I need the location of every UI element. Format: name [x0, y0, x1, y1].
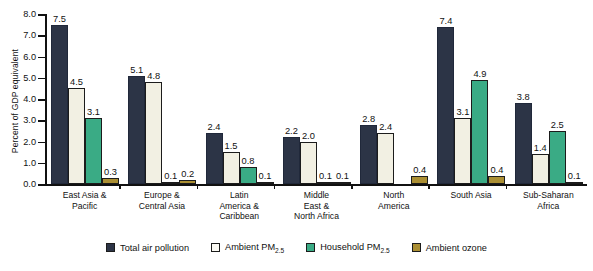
bar-value-label: 0.1 — [164, 171, 177, 181]
bar-group: 3.81.42.50.1 — [515, 14, 583, 184]
bar[interactable] — [223, 152, 240, 184]
bar-slot[interactable]: 0.1 — [317, 14, 334, 184]
bar-slot[interactable]: 3.1 — [454, 14, 471, 184]
bar[interactable] — [549, 131, 566, 184]
bar-group-bars: 2.41.50.80.1 — [206, 14, 274, 184]
bar[interactable] — [257, 182, 274, 185]
bar[interactable] — [68, 88, 85, 184]
bar[interactable] — [471, 80, 488, 184]
bar-slot[interactable]: 1.4 — [532, 14, 549, 184]
bar-slot[interactable] — [394, 14, 411, 184]
bar-slot[interactable]: 0.4 — [488, 14, 505, 184]
bar[interactable] — [515, 103, 532, 184]
x-axis-separator — [351, 184, 353, 189]
bar-slot[interactable]: 4.5 — [68, 14, 85, 184]
bar-value-label: 0.1 — [568, 171, 581, 181]
y-axis-tick-label: 4.0 — [8, 94, 36, 104]
bar[interactable] — [206, 133, 223, 184]
bar-slot[interactable]: 7.4 — [437, 14, 454, 184]
bar[interactable] — [240, 167, 257, 184]
x-axis-separator — [428, 184, 430, 189]
legend-swatch-icon — [306, 243, 315, 252]
category-label-line: Caribbean — [201, 211, 278, 222]
bar[interactable] — [566, 182, 583, 185]
bar-slot[interactable]: 0.4 — [411, 14, 428, 184]
bar-slot[interactable]: 0.1 — [257, 14, 274, 184]
bar-slot[interactable]: 5.1 — [128, 14, 145, 184]
bar-slot[interactable]: 0.1 — [334, 14, 351, 184]
legend-item[interactable]: Total air pollution — [106, 243, 189, 253]
bar-value-label: 2.0 — [302, 131, 315, 141]
bar[interactable] — [51, 25, 68, 184]
bar[interactable] — [437, 27, 454, 184]
bar[interactable] — [532, 154, 549, 184]
bar-value-label: 5.1 — [130, 65, 143, 75]
y-axis-tick — [38, 14, 45, 16]
bar-slot[interactable]: 0.2 — [179, 14, 196, 184]
category-label-line: Pacific — [46, 201, 123, 212]
bar-slot[interactable]: 1.5 — [223, 14, 240, 184]
bar-slot[interactable]: 3.1 — [85, 14, 102, 184]
bar-value-label: 2.8 — [362, 114, 375, 124]
category-label-line: Latin — [201, 190, 278, 201]
bar-group-bars: 7.43.14.90.4 — [437, 14, 505, 184]
bar[interactable] — [377, 133, 394, 184]
bar[interactable] — [488, 176, 505, 185]
bar[interactable] — [102, 178, 119, 184]
x-axis-category-label: South Asia — [432, 190, 509, 201]
y-axis-tick-label: 1.0 — [8, 158, 36, 168]
bar[interactable] — [162, 182, 179, 185]
legend-label: Total air pollution — [120, 243, 189, 253]
category-label-line: Central Asia — [123, 201, 200, 212]
bar-group: 7.54.53.10.3 — [51, 14, 119, 184]
bar-slot[interactable]: 2.2 — [283, 14, 300, 184]
y-axis-tick-label: 5.0 — [8, 73, 36, 83]
bar[interactable] — [454, 118, 471, 184]
x-axis-category-label: MiddleEast &North Africa — [278, 190, 355, 222]
bar-slot[interactable]: 2.0 — [300, 14, 317, 184]
bar[interactable] — [411, 176, 428, 185]
legend-label: Household PM2.5 — [320, 242, 389, 254]
bar[interactable] — [179, 180, 196, 184]
x-axis-separator — [197, 184, 199, 189]
legend-item[interactable]: Household PM2.5 — [306, 242, 389, 254]
x-axis-category-labels: East Asia &PacificEurope &Central AsiaLa… — [46, 190, 587, 234]
category-label-line: America — [355, 201, 432, 212]
bar-slot[interactable]: 2.8 — [360, 14, 377, 184]
bar-slot[interactable]: 2.4 — [206, 14, 223, 184]
bar[interactable] — [334, 182, 351, 185]
bar[interactable] — [317, 182, 334, 185]
bar-group-bars: 7.54.53.10.3 — [51, 14, 119, 184]
x-axis-category-label: LatinAmerica &Caribbean — [201, 190, 278, 222]
bar[interactable] — [300, 142, 317, 185]
bar[interactable] — [283, 137, 300, 184]
bar[interactable] — [145, 82, 162, 184]
bar-slot[interactable]: 0.8 — [240, 14, 257, 184]
bar-value-label: 7.4 — [439, 16, 452, 26]
x-axis-category-label: NorthAmerica — [355, 190, 432, 211]
bar-slot[interactable]: 2.4 — [377, 14, 394, 184]
bar-value-label: 0.4 — [413, 165, 426, 175]
bar-slot[interactable]: 0.1 — [162, 14, 179, 184]
legend-swatch-icon — [412, 243, 421, 252]
bar-slot[interactable]: 0.3 — [102, 14, 119, 184]
bar-value-label: 7.5 — [53, 14, 66, 24]
legend-item[interactable]: Ambient PM2.5 — [211, 242, 284, 254]
y-axis-tick — [38, 35, 45, 37]
y-axis-tick — [38, 57, 45, 59]
bar-slot[interactable]: 2.5 — [549, 14, 566, 184]
legend-item[interactable]: Ambient ozone — [412, 243, 487, 253]
legend-label-subscript: 2.5 — [275, 247, 284, 254]
bar[interactable] — [360, 125, 377, 185]
bar-value-label: 4.5 — [70, 77, 83, 87]
bar-slot[interactable]: 7.5 — [51, 14, 68, 184]
category-label-line: North — [355, 190, 432, 201]
bar[interactable] — [128, 76, 145, 184]
bar-slot[interactable]: 0.1 — [566, 14, 583, 184]
bar-slot[interactable]: 4.9 — [471, 14, 488, 184]
y-axis-tick-label: 8.0 — [8, 9, 36, 19]
bar-slot[interactable]: 3.8 — [515, 14, 532, 184]
legend-label: Ambient PM2.5 — [225, 242, 284, 254]
bar-slot[interactable]: 4.8 — [145, 14, 162, 184]
bar[interactable] — [85, 118, 102, 184]
